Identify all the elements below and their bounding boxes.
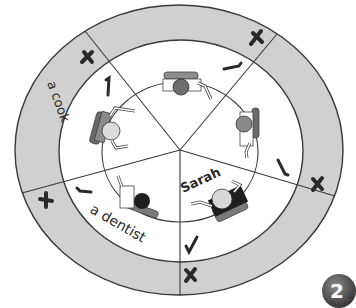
page-number-badge: 2: [322, 274, 356, 308]
